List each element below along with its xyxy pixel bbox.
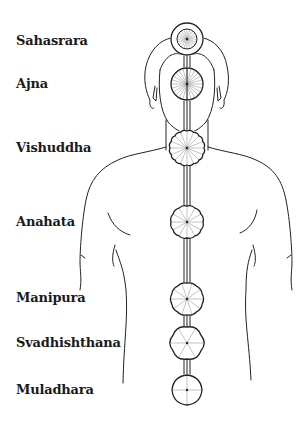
right-pectoral — [240, 210, 257, 233]
label-manipura: Manipura — [16, 290, 85, 306]
label-vishuddha: Vishuddha — [16, 140, 91, 156]
chakra-muladhara-icon — [171, 374, 203, 406]
label-anahata: Anahata — [16, 214, 75, 230]
left-torso — [113, 245, 127, 383]
left-pectoral — [108, 213, 130, 235]
chakra-ajna-icon — [170, 67, 204, 101]
label-sahasrara: Sahasrara — [16, 33, 88, 49]
right-shoulder — [208, 147, 292, 290]
chakra-svadhishthana-icon — [170, 326, 204, 360]
chakra-manipura-icon — [170, 282, 204, 316]
label-svadhishthana: Svadhishthana — [16, 335, 121, 351]
right-arm-inner — [287, 255, 291, 258]
right-torso — [246, 245, 256, 380]
left-arm-inner — [81, 255, 85, 258]
left-shoulder — [80, 147, 166, 290]
right-ear — [217, 86, 221, 101]
chakra-anahata-icon — [170, 205, 204, 239]
chakra-vishuddha-icon — [169, 130, 205, 166]
chakra-diagram: Sahasrara Ajna Vishuddha Anahata Manipur… — [0, 0, 301, 424]
chakra-sahasrara-icon — [170, 22, 204, 56]
label-muladhara: Muladhara — [16, 382, 94, 398]
label-ajna: Ajna — [16, 76, 48, 92]
body-outline-figure — [0, 0, 301, 424]
left-ear — [153, 86, 157, 101]
